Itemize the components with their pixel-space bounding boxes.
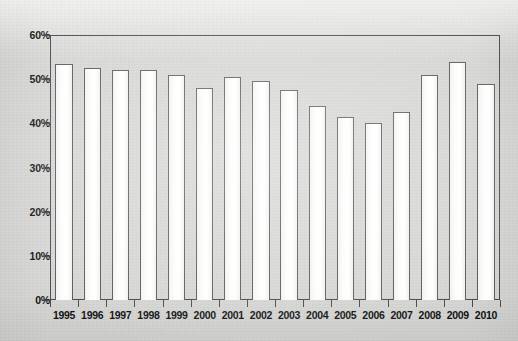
x-axis-tick-label-2005: 2005	[334, 309, 356, 321]
x-axis-tick-label-2010: 2010	[475, 309, 497, 321]
y-axis-tick-label: 40%	[6, 117, 50, 129]
x-axis-tick-label-2003: 2003	[278, 309, 300, 321]
x-axis-tick-label-2008: 2008	[419, 309, 441, 321]
x-axis-tick-label-1999: 1999	[165, 309, 187, 321]
bars-layer	[50, 35, 500, 300]
x-axis-tick-mark	[331, 300, 332, 307]
x-axis-tick-label-2001: 2001	[222, 309, 244, 321]
bar-2006	[365, 123, 382, 300]
x-axis-tick-mark	[191, 300, 192, 307]
x-axis-tick-label-2002: 2002	[250, 309, 272, 321]
x-axis-tick-label-2007: 2007	[390, 309, 412, 321]
y-axis-tick-label: 30%	[6, 162, 50, 174]
x-axis-tick-mark	[78, 300, 79, 307]
bar-chart-figure: 0%10%20%30%40%50%60% 1995199619971998199…	[0, 0, 518, 341]
x-axis-tick-mark	[163, 300, 164, 307]
y-axis-tick-label: 0%	[6, 294, 50, 306]
x-axis-tick-label-1995: 1995	[53, 309, 75, 321]
bar-2003	[280, 90, 297, 300]
x-axis-tick-mark	[500, 300, 501, 307]
bar-2001	[224, 77, 241, 300]
bar-2009	[449, 62, 466, 301]
x-axis-tick-label-2000: 2000	[194, 309, 216, 321]
x-axis-tick-mark	[219, 300, 220, 307]
x-axis-tick-mark	[303, 300, 304, 307]
bar-2004	[309, 106, 326, 300]
y-axis-tick-label: 10%	[6, 250, 50, 262]
bar-2000	[196, 88, 213, 300]
x-axis-tick-label-2006: 2006	[362, 309, 384, 321]
x-axis-tick-label-1998: 1998	[137, 309, 159, 321]
y-axis-tick-label: 20%	[6, 206, 50, 218]
x-axis-tick-label-2004: 2004	[306, 309, 328, 321]
x-axis: 1995199619971998199920002001200220032004…	[50, 300, 500, 341]
bar-2005	[337, 117, 354, 300]
x-axis-tick-mark	[50, 300, 51, 307]
y-axis-tick-label: 60%	[6, 29, 50, 41]
x-axis-tick-mark	[472, 300, 473, 307]
x-axis-tick-mark	[275, 300, 276, 307]
bar-2008	[421, 75, 438, 300]
bar-2010	[477, 84, 494, 300]
bar-1997	[112, 70, 129, 300]
bar-1999	[168, 75, 185, 300]
y-axis-tick-label: 50%	[6, 73, 50, 85]
x-axis-tick-mark	[106, 300, 107, 307]
x-axis-tick-mark	[134, 300, 135, 307]
x-axis-tick-label-1997: 1997	[109, 309, 131, 321]
x-axis-tick-mark	[359, 300, 360, 307]
x-axis-tick-mark	[416, 300, 417, 307]
x-axis-tick-mark	[388, 300, 389, 307]
bar-1995	[55, 64, 72, 300]
x-axis-tick-mark	[247, 300, 248, 307]
x-axis-tick-mark	[444, 300, 445, 307]
bar-1996	[84, 68, 101, 300]
x-axis-tick-label-2009: 2009	[447, 309, 469, 321]
y-axis: 0%10%20%30%40%50%60%	[0, 0, 50, 341]
bar-1998	[140, 70, 157, 300]
bar-2002	[252, 81, 269, 300]
bar-2007	[393, 112, 410, 300]
x-axis-tick-label-1996: 1996	[81, 309, 103, 321]
